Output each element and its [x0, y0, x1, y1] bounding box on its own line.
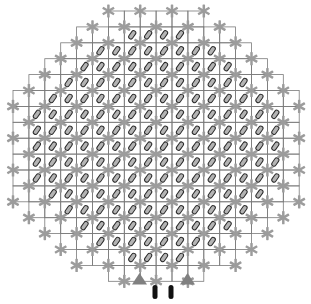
left-instrument-bar: [153, 285, 158, 299]
core-lattice-map-figure: [0, 0, 311, 304]
core-lattice-svg: [0, 0, 311, 304]
right-instrument-bar: [169, 285, 174, 299]
